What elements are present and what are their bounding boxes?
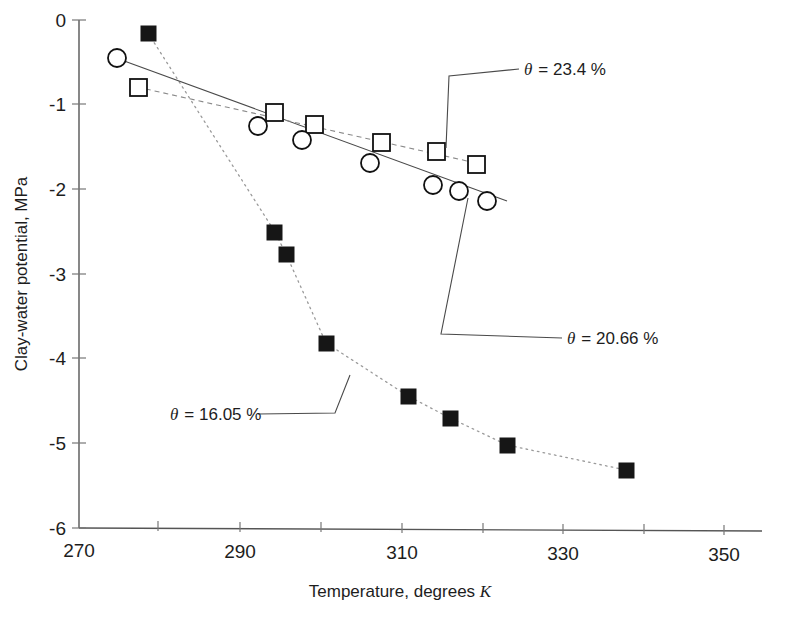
chart-figure: 0 -1 -2 -3 -4 -5 -6 270 290 310 330 350 … xyxy=(0,0,792,618)
x-tick-label-290: 290 xyxy=(224,541,256,562)
data-point-16-05-7 xyxy=(500,438,515,453)
theta-symbol-1605: θ xyxy=(170,405,178,424)
x-tick-label-310: 310 xyxy=(386,542,418,563)
x-axis-title-text: Temperature, degrees xyxy=(309,582,480,601)
data-point-20-66-5 xyxy=(424,176,442,194)
data-point-16-05-2 xyxy=(267,225,282,240)
y-tick-label-minus2: -2 xyxy=(49,179,66,200)
data-point-23-4-1 xyxy=(130,79,147,96)
y-tick-label-minus3: -3 xyxy=(49,264,66,285)
data-point-20-66-7 xyxy=(478,192,496,210)
annotation-theta-2066: θ= 20.66 % xyxy=(567,329,658,348)
data-point-16-05-3 xyxy=(279,247,294,262)
data-point-16-05-6 xyxy=(443,411,458,426)
data-point-20-66-2 xyxy=(249,117,267,135)
y-tick-label-minus6: -6 xyxy=(49,518,66,539)
data-point-23-4-4 xyxy=(373,134,390,151)
x-axis-title-italic-k: K xyxy=(479,582,493,601)
y-axis-title: Clay-water potential, MPa xyxy=(12,176,31,371)
data-point-23-4-2 xyxy=(266,104,283,121)
data-point-23-4-3 xyxy=(306,116,323,133)
y-tick-label-minus5: -5 xyxy=(49,433,66,454)
theta-symbol-234: θ xyxy=(524,60,532,79)
theta-symbol-2066: θ xyxy=(567,329,575,348)
data-point-20-66-1 xyxy=(108,49,126,67)
y-tick-label-0: 0 xyxy=(55,10,66,31)
data-point-16-05-1 xyxy=(141,26,156,41)
y-tick-label-minus4: -4 xyxy=(49,348,66,369)
data-point-16-05-8 xyxy=(619,463,634,478)
x-tick-label-270: 270 xyxy=(63,540,95,561)
data-point-20-66-3 xyxy=(293,131,311,149)
data-point-20-66-4 xyxy=(361,154,379,172)
data-point-20-66-6 xyxy=(450,182,468,200)
chart-svg: 0 -1 -2 -3 -4 -5 -6 270 290 310 330 350 … xyxy=(0,0,792,618)
chart-background xyxy=(0,0,792,618)
data-point-16-05-4 xyxy=(319,336,334,351)
annotation-theta-1605-value: = 16.05 % xyxy=(184,405,261,424)
x-tick-label-330: 330 xyxy=(547,543,579,564)
y-tick-label-minus1: -1 xyxy=(49,94,66,115)
annotation-theta-2066-value: = 20.66 % xyxy=(581,329,658,348)
data-point-16-05-5 xyxy=(401,389,416,404)
annotation-theta-234-value: = 23.4 % xyxy=(538,60,606,79)
annotation-theta-1605: θ= 16.05 % xyxy=(170,405,261,424)
x-tick-label-350: 350 xyxy=(708,544,740,565)
data-point-23-4-5 xyxy=(428,143,445,160)
data-point-23-4-6 xyxy=(468,156,485,173)
x-axis-title: Temperature, degrees K xyxy=(309,582,493,601)
